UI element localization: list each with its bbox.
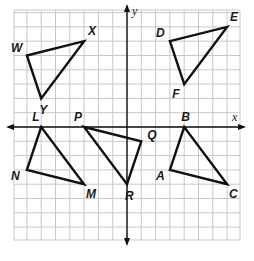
vertex-label-c: C (229, 187, 238, 201)
coordinate-plane: x y WXYDEFLNMPQRBAC (0, 0, 254, 261)
y-axis-up-arrow-icon (124, 4, 130, 12)
y-axis-label: y (131, 4, 138, 18)
vertex-label-r: R (125, 189, 134, 203)
y-axis-down-arrow-icon (124, 238, 130, 246)
x-axis-label: x (231, 110, 238, 124)
vertex-label-x: X (87, 24, 97, 38)
vertex-label-m: M (86, 187, 97, 201)
vertex-label-a: A (155, 169, 165, 183)
axes: x y (6, 4, 246, 246)
vertex-label-p: P (74, 110, 83, 124)
vertex-label-b: B (181, 110, 190, 124)
triangles: WXYDEFLNMPQRBAC (11, 10, 239, 203)
x-axis-right-arrow-icon (238, 124, 246, 130)
vertex-label-l: L (32, 110, 39, 124)
vertex-label-f: F (172, 87, 180, 101)
vertex-label-n: N (11, 169, 20, 183)
x-axis-left-arrow-icon (6, 124, 14, 130)
vertex-label-d: D (156, 26, 165, 40)
vertex-label-y: Y (39, 103, 48, 117)
vertex-label-q: Q (147, 128, 157, 142)
vertex-label-w: W (11, 41, 24, 55)
vertex-label-e: E (230, 10, 239, 24)
